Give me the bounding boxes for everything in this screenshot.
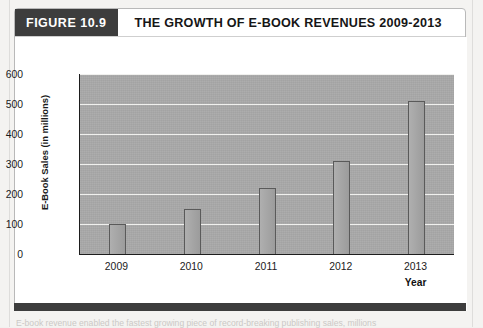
bar-sheen (185, 210, 200, 254)
gridline (80, 164, 454, 165)
x-axis-tick-label: 2009 (86, 261, 146, 272)
x-axis-tick-label: 2012 (311, 261, 371, 272)
figure-caption: E-book revenue enabled the fastest growi… (16, 319, 467, 328)
figure-card: FIGURE 10.9 THE GROWTH OF E-BOOK REVENUE… (14, 8, 466, 311)
bar-sheen (110, 225, 125, 254)
bar (259, 188, 276, 254)
gridline (80, 74, 454, 75)
bar-sheen (409, 102, 424, 254)
x-axis-title: Year (386, 277, 446, 288)
y-axis-title: E-Book Sales (in millions) (39, 78, 50, 228)
plot-area (79, 74, 454, 255)
bar (333, 161, 350, 254)
y-axis-tick-label: 100 (0, 219, 23, 230)
gridline (80, 134, 454, 135)
figure-header: FIGURE 10.9 THE GROWTH OF E-BOOK REVENUE… (15, 9, 465, 36)
y-axis-tick-label: 0 (0, 249, 23, 260)
bar-sheen (260, 189, 275, 254)
chart-area: E-Book Sales (in millions) 0100200300400… (15, 37, 467, 311)
bar (184, 209, 201, 254)
figure-number-badge: FIGURE 10.9 (15, 9, 118, 36)
x-axis-tick-label: 2010 (161, 261, 221, 272)
figure-title: THE GROWTH OF E-BOOK REVENUES 2009-2013 (118, 9, 465, 36)
bar (109, 224, 126, 254)
bar-sheen (334, 162, 349, 254)
gridline (80, 104, 454, 105)
y-axis-tick-label: 300 (0, 159, 23, 170)
page-edge-right (472, 0, 473, 327)
bar (408, 101, 425, 254)
y-axis-tick-label: 200 (0, 189, 23, 200)
y-axis-tick-label: 600 (0, 69, 23, 80)
y-axis-tick-label: 500 (0, 99, 23, 110)
y-axis-tick-label: 400 (0, 129, 23, 140)
x-axis-tick-label: 2013 (386, 261, 446, 272)
x-axis-tick-label: 2011 (236, 261, 296, 272)
figure-bottom-rule (14, 303, 466, 311)
